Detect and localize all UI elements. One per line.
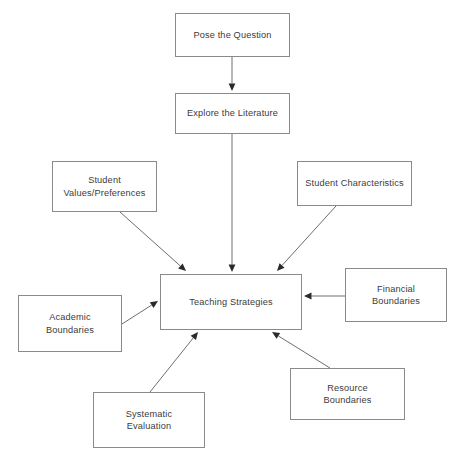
arrow-edge-explore-to-teaching: [229, 134, 236, 272]
node-label-teaching-strategies: Teaching Strategies: [185, 296, 277, 309]
arrow-edge-values-to-teaching: [120, 212, 186, 271]
arrow-edge-academic-to-teaching: [122, 301, 158, 324]
node-label-student-values-preferences: Student Values/Preferences: [59, 174, 149, 199]
diagram-canvas: Pose the QuestionExplore the LiteratureS…: [0, 0, 454, 462]
arrow-edge-pose-to-explore: [229, 57, 236, 91]
arrow-edge-systematic-to-teaching: [150, 332, 198, 392]
node-resource-boundaries[interactable]: Resource Boundaries: [290, 368, 405, 420]
node-label-explore-the-literature: Explore the Literature: [183, 107, 282, 120]
node-label-systematic-evaluation: Systematic Evaluation: [122, 408, 176, 433]
node-student-values-preferences[interactable]: Student Values/Preferences: [52, 161, 157, 212]
node-label-pose-the-question: Pose the Question: [189, 29, 275, 42]
node-label-student-characteristics: Student Characteristics: [301, 177, 407, 190]
node-label-financial-boundaries: Financial Boundaries: [368, 283, 424, 308]
node-pose-the-question[interactable]: Pose the Question: [175, 13, 290, 57]
arrow-edge-financial-to-teaching: [304, 293, 345, 300]
node-label-resource-boundaries: Resource Boundaries: [320, 382, 376, 407]
arrow-edge-characteristics-to-teaching: [277, 206, 336, 271]
arrow-edge-resource-to-teaching: [272, 332, 330, 368]
node-student-characteristics[interactable]: Student Characteristics: [297, 161, 412, 206]
node-explore-the-literature[interactable]: Explore the Literature: [175, 93, 290, 134]
node-financial-boundaries[interactable]: Financial Boundaries: [345, 268, 447, 322]
node-label-academic-boundaries: Academic Boundaries: [42, 311, 98, 336]
node-academic-boundaries[interactable]: Academic Boundaries: [18, 295, 122, 352]
node-systematic-evaluation[interactable]: Systematic Evaluation: [93, 392, 205, 448]
node-teaching-strategies[interactable]: Teaching Strategies: [160, 274, 302, 330]
